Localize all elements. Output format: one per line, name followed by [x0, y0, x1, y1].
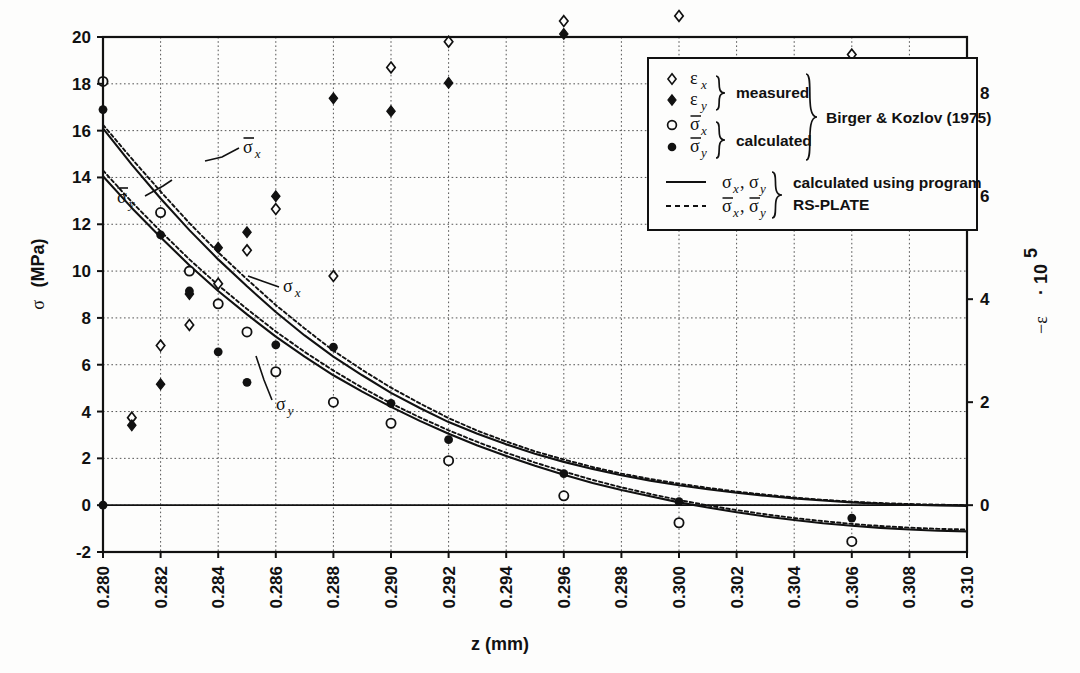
x-axis-tick-label: 0.280 [94, 566, 113, 609]
x-axis-tick-label: 0.310 [958, 566, 977, 609]
y-axis-left-tick-label: 2 [82, 449, 91, 468]
marker-filled-circle [185, 287, 194, 296]
x-axis-tick-label: 0.284 [209, 565, 228, 608]
legend-marker-filled-circle [668, 143, 677, 152]
marker-filled-circle [214, 347, 223, 356]
y-axis-left-tick-label: -2 [76, 543, 91, 562]
legend: εxεyσxσymeasuredcalculatedBirger & Kozlo… [648, 58, 991, 230]
y-axis-right-tick-label: 4 [980, 290, 990, 309]
svg-text:,: , [740, 196, 745, 216]
marker-filled-circle [156, 230, 165, 239]
legend-group-measured: measured [736, 84, 809, 101]
x-axis-tick-label: 0.306 [843, 566, 862, 609]
x-axis-tick-label: 0.290 [382, 566, 401, 609]
x-axis-tick-label: 0.292 [440, 566, 459, 609]
legend-program-line2: RS-PLATE [793, 196, 869, 213]
svg-text:y: y [286, 403, 294, 418]
legend-symbol-label: σ [690, 136, 700, 156]
marker-open-circle [329, 398, 338, 407]
y-axis-left-tick-label: 0 [82, 496, 91, 515]
marker-filled-circle [387, 399, 396, 408]
marker-open-circle [242, 327, 251, 336]
svg-text:σ: σ [722, 196, 732, 216]
svg-text:σ: σ [243, 137, 253, 157]
y-axis-left-tick-label: 14 [72, 168, 91, 187]
marker-open-circle [185, 266, 194, 275]
x-axis-tick-label: 0.282 [152, 566, 171, 609]
x-axis-tick-label: 0.296 [555, 566, 574, 609]
marker-open-circle [674, 518, 683, 527]
svg-text:y: y [127, 196, 135, 211]
x-axis-tick-label: 0.308 [900, 566, 919, 609]
legend-symbol-label: σ [690, 114, 700, 134]
x-axis-tick-label: 0.304 [785, 565, 804, 608]
marker-open-circle [444, 456, 453, 465]
svg-text:y: y [758, 181, 766, 196]
marker-open-circle [559, 491, 568, 500]
marker-filled-circle [847, 514, 856, 523]
svg-text:x: x [254, 146, 261, 161]
x-axis-tick-label: 0.294 [497, 565, 516, 608]
svg-text:σ: σ [283, 276, 293, 296]
y-axis-left-tick-label: 18 [72, 75, 91, 94]
x-axis-tick-label: 0.300 [670, 566, 689, 609]
svg-text:x: x [732, 181, 739, 196]
y-axis-left-tick-label: 20 [72, 28, 91, 47]
marker-open-circle [847, 537, 856, 546]
svg-text:x: x [294, 285, 301, 300]
marker-filled-circle [271, 340, 280, 349]
legend-source-citation: Birger & Kozlov (1975) [826, 109, 991, 126]
x-axis-tick-label: 0.302 [728, 566, 747, 609]
legend-symbol-label: ε [690, 68, 698, 88]
marker-filled-circle [329, 343, 338, 352]
y-axis-left-tick-label: 4 [82, 403, 92, 422]
marker-filled-circle [444, 435, 453, 444]
y-axis-right-tick-label: 0 [980, 496, 989, 515]
svg-text:x: x [732, 205, 739, 220]
svg-text:,: , [740, 172, 745, 192]
legend-group-calculated: calculated [736, 132, 812, 149]
y-axis-left-tick-label: 10 [72, 262, 91, 281]
svg-text:σ: σ [28, 300, 48, 310]
svg-text:σ: σ [749, 196, 759, 216]
marker-open-circle [386, 419, 395, 428]
svg-text:σ: σ [749, 172, 759, 192]
x-axis-tick-label: 0.298 [612, 566, 631, 609]
svg-text:· 10: · 10 [1031, 264, 1051, 295]
svg-text:σ: σ [117, 187, 127, 207]
legend-program-line1: calculated using program [793, 174, 982, 191]
marker-filled-circle [559, 469, 568, 478]
x-axis-title: z (mm) [471, 634, 529, 654]
svg-text:σ: σ [722, 172, 732, 192]
legend-symbol-subscript: x [700, 123, 707, 138]
marker-open-circle [214, 299, 223, 308]
marker-open-circle [271, 367, 280, 376]
y-axis-left-tick-label: 16 [72, 122, 91, 141]
y-axis-right-tick-label: 2 [980, 393, 989, 412]
svg-text:σ: σ [276, 394, 286, 414]
legend-symbol-subscript: y [699, 98, 707, 113]
svg-text:5: 5 [1021, 248, 1041, 258]
chart-page: -20246810121416182002468100.2800.2820.28… [0, 0, 1080, 673]
stress-strain-depth-chart: -20246810121416182002468100.2800.2820.28… [0, 0, 1080, 673]
marker-open-circle [156, 208, 165, 217]
legend-symbol-subscript: x [700, 77, 707, 92]
y-axis-left-tick-label: 8 [82, 309, 91, 328]
svg-text:y: y [758, 205, 766, 220]
marker-filled-circle [243, 378, 252, 387]
x-axis-tick-label: 0.288 [324, 566, 343, 609]
legend-symbol-subscript: y [699, 145, 707, 160]
y-axis-left-tick-label: 12 [72, 215, 91, 234]
y-axis-left-tick-label: 6 [82, 356, 91, 375]
svg-text:−ε: −ε [1031, 316, 1051, 334]
x-axis-tick-label: 0.286 [267, 566, 286, 609]
svg-text:(MPa): (MPa) [28, 238, 48, 287]
legend-symbol-label: ε [690, 89, 698, 109]
legend-marker-open-circle [668, 121, 677, 130]
y-axis-right-tick-label: 8 [980, 84, 989, 103]
